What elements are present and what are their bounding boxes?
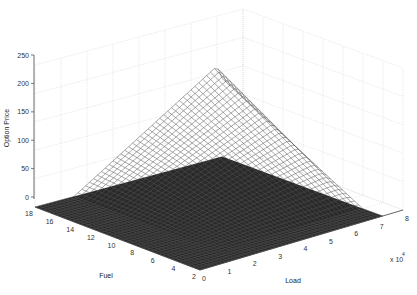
tick-label: 4 [304, 245, 308, 252]
tick-label: 3 [278, 253, 282, 260]
tick-label: 14 [66, 226, 74, 233]
tick-label: 1 [227, 268, 231, 275]
tick-label: 0 [202, 275, 206, 282]
tick-label: 50 [21, 165, 29, 172]
tick-label: 16 [46, 218, 54, 225]
tick-label: 8 [130, 249, 134, 256]
x-multiplier-exponent: 4 [402, 251, 405, 257]
x-axis-label: Load [285, 277, 301, 284]
x-multiplier-label: x 10 [390, 256, 403, 263]
tick-label: 200 [17, 80, 29, 87]
tick-label: 6 [354, 230, 358, 237]
tick-label: 5 [329, 238, 333, 245]
tick-label: 250 [17, 52, 29, 59]
tick-label: 6 [151, 257, 155, 264]
tick-label: 7 [380, 223, 384, 230]
z-axis-label: Option Price [3, 109, 11, 148]
tick-label: 2 [253, 260, 257, 267]
tick-label: 4 [171, 265, 175, 272]
surface-plot: 05010015020025024681012141618012345678 O… [0, 0, 417, 295]
tick-label: 2 [192, 273, 196, 280]
tick-label: 10 [108, 242, 116, 249]
tick-label: 12 [87, 234, 95, 241]
y-axis-label: Fuel [99, 272, 113, 279]
tick-label: 8 [405, 215, 409, 222]
tick-label: 18 [25, 210, 33, 217]
tick-label: 100 [17, 137, 29, 144]
tick-label: 0 [25, 194, 29, 201]
tick-label: 150 [17, 108, 29, 115]
